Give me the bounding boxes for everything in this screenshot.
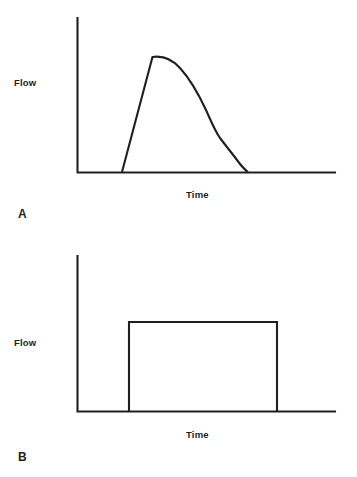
panel-b-y-axis-label: Flow xyxy=(14,338,36,348)
panel-b-letter: B xyxy=(18,451,27,463)
panel-a-y-axis-label: Flow xyxy=(14,78,36,88)
panel-b: Flow Time xyxy=(0,238,357,477)
panel-a: Flow Time xyxy=(0,0,357,235)
panel-a-letter: A xyxy=(18,208,27,220)
panel-a-x-axis-label: Time xyxy=(186,190,209,200)
flow-waveform-figure: Flow Time A Flow Time B xyxy=(0,0,357,477)
panel-a-axes xyxy=(78,18,336,173)
panel-b-x-axis-label: Time xyxy=(186,430,209,440)
panel-b-flow-curve xyxy=(129,322,277,412)
panel-b-plot xyxy=(0,238,357,477)
panel-a-flow-curve xyxy=(122,57,248,172)
panel-b-axes xyxy=(78,256,336,412)
panel-a-plot xyxy=(0,0,357,235)
